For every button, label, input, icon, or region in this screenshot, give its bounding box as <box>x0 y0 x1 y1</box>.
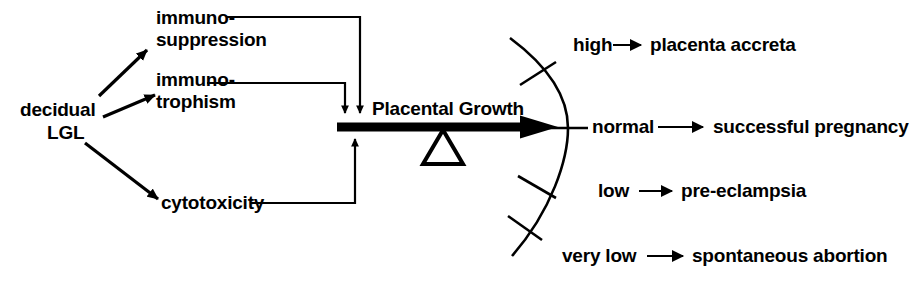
gauge-level-high: high <box>573 35 612 55</box>
label-immunotrophism-line1: immuno- <box>156 70 235 90</box>
outcome-spontaneous-abortion: spontaneous abortion <box>692 246 888 266</box>
label-placental-growth: Placental Growth <box>372 99 524 119</box>
outcome-placenta-accreta: placenta accreta <box>650 35 796 55</box>
label-immunosuppression-line2: suppression <box>156 30 267 50</box>
outcome-successful-pregnancy: successful pregnancy <box>713 117 909 137</box>
gauge-tick-low <box>518 176 556 198</box>
outcome-arrows <box>613 45 703 256</box>
gauge-tick-high <box>520 62 556 85</box>
gauge-level-low: low <box>598 181 629 201</box>
label-immunosuppression-line1: immuno- <box>156 8 235 28</box>
gauge-arc-group <box>508 38 588 256</box>
gauge-tick-verylow <box>508 216 542 240</box>
label-immunotrophism-line2: trophism <box>156 92 236 112</box>
label-source-line2: LGL <box>47 123 84 143</box>
label-source-line1: decidual <box>20 100 95 120</box>
gauge-level-verylow: very low <box>562 246 636 266</box>
feedback-line-cytotoxicity <box>253 139 355 203</box>
gauge-level-normal: normal <box>592 117 654 137</box>
lever-assembly <box>337 116 558 165</box>
outcome-pre-eclampsia: pre-eclampsia <box>681 181 806 201</box>
arrow-to-immunosuppression <box>99 50 147 96</box>
diagram-canvas: immuno- suppression immuno- trophism dec… <box>0 0 918 281</box>
feedback-line-immunotrophism <box>240 83 345 113</box>
label-cytotoxicity: cytotoxicity <box>161 193 264 213</box>
triangle-fulcrum <box>423 130 463 164</box>
arrow-to-immunotrophism <box>103 95 155 117</box>
arrow-to-cytotoxicity <box>85 143 158 199</box>
source-branch-arrows <box>85 50 158 199</box>
